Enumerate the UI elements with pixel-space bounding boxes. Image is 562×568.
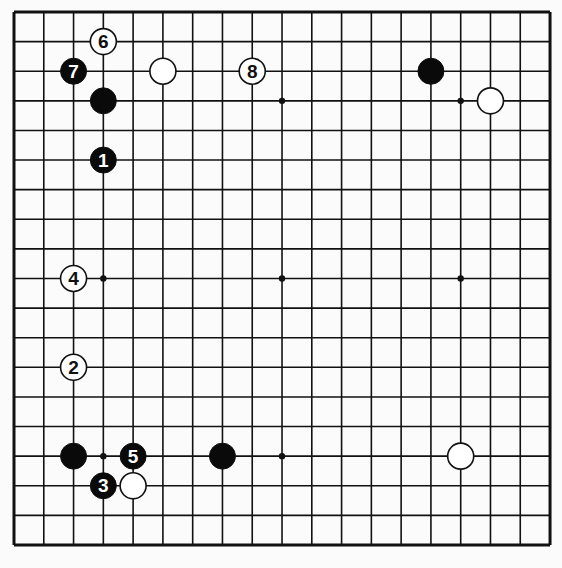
white-stone: 4 bbox=[61, 265, 87, 291]
black-stone bbox=[61, 443, 87, 469]
star-point bbox=[458, 98, 464, 104]
white-stone-disc bbox=[448, 443, 474, 469]
white-stone: 8 bbox=[239, 58, 265, 84]
move-number-label: 6 bbox=[98, 31, 109, 52]
move-number-label: 4 bbox=[68, 268, 79, 289]
star-point bbox=[458, 275, 464, 281]
black-stone-disc bbox=[209, 443, 235, 469]
go-board: 67814253 bbox=[0, 0, 562, 568]
move-number-label: 1 bbox=[98, 150, 109, 171]
move-number-label: 3 bbox=[98, 475, 109, 496]
move-number-label: 2 bbox=[68, 357, 79, 378]
black-stone-disc bbox=[418, 58, 444, 84]
black-stone-disc bbox=[90, 88, 116, 114]
black-stone bbox=[418, 58, 444, 84]
move-number-label: 7 bbox=[68, 61, 79, 82]
white-stone bbox=[477, 88, 503, 114]
white-stone bbox=[150, 58, 176, 84]
black-stone bbox=[209, 443, 235, 469]
black-stone: 5 bbox=[120, 443, 146, 469]
move-number-label: 5 bbox=[128, 446, 139, 467]
white-stone bbox=[120, 473, 146, 499]
black-stone bbox=[90, 88, 116, 114]
black-stone: 1 bbox=[90, 147, 116, 173]
black-stone: 7 bbox=[61, 58, 87, 84]
black-stone: 3 bbox=[90, 473, 116, 499]
star-point bbox=[279, 453, 285, 459]
move-number-label: 8 bbox=[247, 61, 258, 82]
white-stone-disc bbox=[477, 88, 503, 114]
star-point bbox=[100, 453, 106, 459]
black-stone-disc bbox=[61, 443, 87, 469]
star-point bbox=[100, 275, 106, 281]
white-stone: 2 bbox=[61, 354, 87, 380]
white-stone bbox=[448, 443, 474, 469]
white-stone-disc bbox=[150, 58, 176, 84]
star-point bbox=[279, 275, 285, 281]
star-point bbox=[279, 98, 285, 104]
white-stone: 6 bbox=[90, 29, 116, 55]
white-stone-disc bbox=[120, 473, 146, 499]
